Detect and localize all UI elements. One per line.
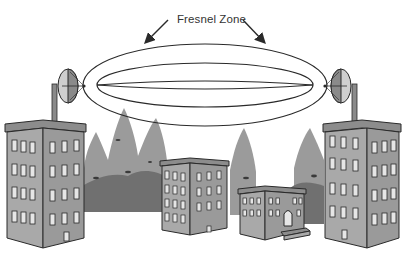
- small-building: [238, 186, 310, 240]
- fresnel-zone-label: Fresnel Zone: [177, 13, 246, 25]
- arrow-left-icon: [146, 20, 168, 42]
- left-building: [5, 120, 86, 248]
- fresnel-zone-ellipses: [83, 44, 327, 126]
- arrow-right-icon: [243, 20, 264, 42]
- fresnel-zone-diagram: Fresnel Zone: [0, 0, 409, 255]
- middle-building: [160, 158, 229, 235]
- diagram-illustration: [0, 0, 409, 255]
- right-building: [323, 120, 401, 248]
- right-antenna-icon: [323, 69, 357, 124]
